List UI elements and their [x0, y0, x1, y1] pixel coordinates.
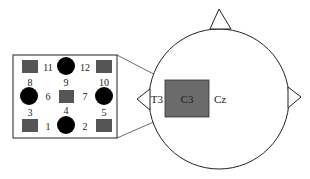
electrode-label-5: 5: [102, 107, 107, 118]
t3-label: T3: [151, 93, 164, 105]
left-ear-icon: [137, 89, 150, 110]
electrode-label-8: 8: [28, 77, 33, 88]
electrode-square-top-left: [22, 60, 38, 73]
electrode-circle-4: [57, 116, 75, 134]
electrode-circle-10: [95, 87, 113, 105]
electrode-circle-9: [57, 57, 75, 75]
right-ear-icon: [288, 87, 301, 108]
electrode-label-3: 3: [28, 107, 33, 118]
electrode-label-11: 11: [43, 62, 53, 73]
electrode-label-7: 7: [83, 91, 88, 102]
electrode-label-1: 1: [46, 121, 51, 132]
electrode-square-bottom-right: [96, 119, 112, 132]
electrode-circle-8: [20, 87, 38, 105]
electrode-square-bottom-left: [22, 119, 38, 132]
eeg-montage-diagram: C3 T3 Cz 11 12 8 9 10 6 7 3 4 5 1 2: [0, 0, 310, 179]
electrode-label-6: 6: [46, 91, 51, 102]
nose-icon: [210, 9, 231, 29]
electrode-label-9: 9: [64, 77, 69, 88]
cz-label: Cz: [214, 93, 226, 105]
electrode-label-4: 4: [64, 105, 69, 116]
diagram-canvas: C3 T3 Cz 11 12 8 9 10 6 7 3 4 5 1 2: [0, 0, 310, 179]
electrode-label-10: 10: [99, 77, 109, 88]
electrode-square-top-right: [96, 60, 112, 73]
c3-label: C3: [181, 93, 194, 105]
electrode-label-12: 12: [80, 62, 90, 73]
electrode-label-2: 2: [83, 121, 88, 132]
electrode-square-center: [59, 90, 74, 103]
